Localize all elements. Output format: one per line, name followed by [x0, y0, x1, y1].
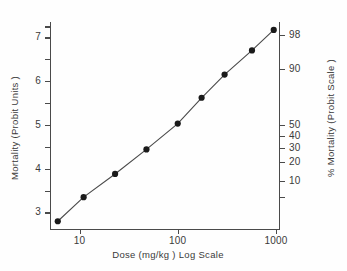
probit-mortality-chart: 3456798905040302010101001000 Mortality (…	[0, 0, 347, 271]
data-point	[271, 27, 277, 33]
y-axis-left-tick	[45, 26, 50, 27]
y-axis-right-tick	[279, 181, 285, 182]
data-point	[143, 146, 149, 152]
y-axis-right-tick	[279, 148, 285, 149]
y-axis-right-tick-label: 90	[289, 64, 301, 74]
y-axis-right-tick	[279, 35, 285, 36]
data-point	[175, 120, 181, 126]
data-point	[249, 47, 255, 53]
data-point	[112, 171, 118, 177]
y-axis-left-title: Mortality (Probit Units )	[9, 76, 20, 180]
y-axis-right-tick	[279, 162, 285, 163]
data-point	[221, 71, 227, 77]
y-axis-right-tick-label: 10	[289, 176, 301, 186]
y-axis-right-tick-label: 30	[289, 143, 301, 153]
y-axis-right-title: % Mortality (Probit Scale )	[325, 59, 336, 177]
y-axis-right-tick-label: 40	[289, 131, 301, 141]
y-axis-left-tick	[45, 212, 50, 213]
x-axis-tick-label: 100	[169, 236, 186, 246]
y-axis-right-tick	[279, 125, 285, 126]
x-axis-tick	[276, 229, 277, 234]
y-axis-left-tick	[45, 81, 50, 82]
x-axis-title: Dose (mg/kg ) Log Scale	[112, 249, 223, 260]
data-point	[55, 218, 61, 224]
y-axis-right-tick	[279, 197, 285, 198]
plot-area: 3456798905040302010101001000	[50, 22, 280, 230]
y-axis-left-tick	[45, 37, 50, 38]
y-axis-left-tick	[45, 103, 50, 104]
y-axis-left-tick-label: 3	[35, 207, 41, 217]
y-axis-right-tick	[279, 69, 285, 70]
trend-line	[58, 30, 274, 221]
y-axis-left-tick-label: 5	[35, 120, 41, 130]
y-axis-left-tick	[45, 59, 50, 60]
y-axis-left-tick-label: 7	[35, 32, 41, 42]
data-points	[55, 27, 277, 225]
data-series	[50, 22, 280, 230]
data-point	[81, 194, 87, 200]
y-axis-right-tick	[279, 136, 285, 137]
x-axis-tick	[178, 229, 179, 234]
y-axis-left-tick-label: 6	[35, 76, 41, 86]
x-axis-tick-label: 10	[74, 236, 86, 246]
y-axis-left-tick	[45, 147, 50, 148]
y-axis-left-tick	[45, 169, 50, 170]
data-point	[199, 95, 205, 101]
x-axis-tick-label: 1000	[264, 236, 287, 246]
x-axis-tick	[80, 229, 81, 234]
y-axis-left-tick	[45, 191, 50, 192]
y-axis-right-tick-label: 50	[289, 120, 301, 130]
y-axis-left-tick-label: 4	[35, 164, 41, 174]
y-axis-right-tick-label: 20	[289, 157, 301, 167]
y-axis-right-tick-label: 98	[289, 30, 301, 40]
y-axis-left-tick	[45, 125, 50, 126]
